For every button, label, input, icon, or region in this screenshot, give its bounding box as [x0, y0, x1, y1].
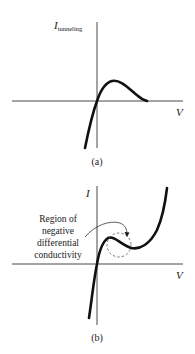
panel-b-y-axis-label: I — [85, 187, 91, 199]
panel-a-y-axis-label: Itunneling — [53, 19, 83, 32]
panel-a-x-axis-label: V — [176, 106, 184, 118]
svg-text:differential: differential — [37, 238, 79, 248]
panel-b-caption: (b) — [91, 332, 103, 344]
panel-a-caption: (a) — [91, 156, 102, 168]
svg-text:negative: negative — [42, 226, 74, 236]
total-current-curve — [89, 188, 167, 318]
ndc-annotation: Region of negative differential conducti… — [34, 214, 82, 260]
svg-text:Region of: Region of — [39, 214, 78, 224]
figure-canvas: Itunneling V (a) I V Region of negative … — [0, 0, 195, 354]
ndc-region-circle — [107, 233, 131, 257]
panel-a: Itunneling V (a) — [12, 19, 184, 168]
panel-b: I V Region of negative differential cond… — [12, 186, 184, 344]
tunneling-current-curve — [85, 81, 147, 148]
annotation-arrow — [85, 222, 127, 237]
arrowhead-icon — [125, 232, 130, 237]
panel-b-x-axis-label: V — [176, 269, 184, 281]
svg-text:conductivity: conductivity — [34, 250, 82, 260]
